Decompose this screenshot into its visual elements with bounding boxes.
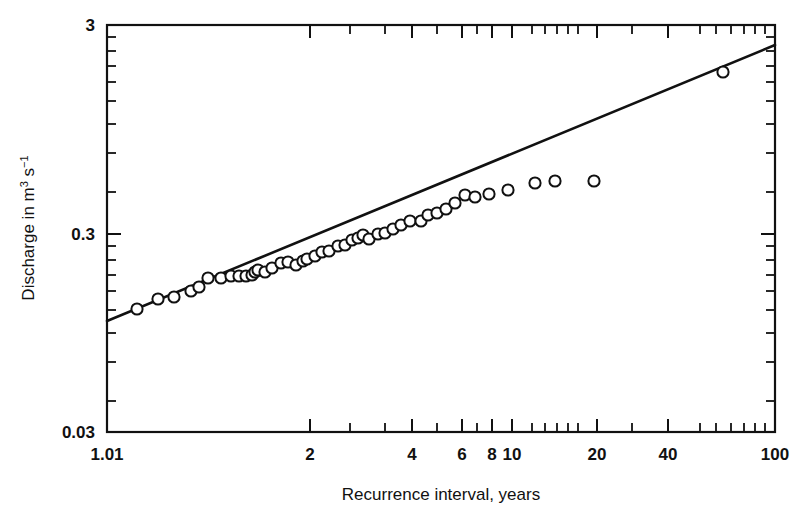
data-point [549,175,560,186]
x-tick-label: 40 [659,445,678,464]
y-tick-label: 3 [86,16,95,35]
y-axis-title-group: Discharge in m3 s−1 [18,155,38,300]
data-point [193,281,204,292]
y-tick-label: 0.03 [62,423,95,442]
y-axis-title-exponent-minus1: −1 [18,155,30,168]
y-axis-title: Discharge in m3 s−1 [18,155,38,300]
x-tick-label: 8 [487,445,496,464]
x-tick-label: 10 [503,445,522,464]
data-point [449,197,460,208]
data-point [131,303,142,314]
data-point [529,177,540,188]
data-point [152,293,163,304]
data-point [717,66,728,77]
data-point [502,184,513,195]
data-point [588,175,599,186]
x-axis-title: Recurrence interval, years [342,485,540,504]
flood-frequency-chart: 30.30.03 1.012468102040100 Recurrence in… [0,0,812,527]
data-point [483,188,494,199]
y-axis-title-mid: s [19,168,38,181]
data-point [469,191,480,202]
data-point [202,272,213,283]
x-tick-label: 6 [457,445,466,464]
x-tick-label: 4 [407,445,417,464]
data-point [168,291,179,302]
y-tick-label: 0.3 [71,225,95,244]
x-tick-label: 100 [761,445,789,464]
y-axis-title-main: Discharge in m [19,187,38,300]
data-point [404,215,415,226]
x-tick-label: 2 [305,445,314,464]
x-tick-label: 1.01 [90,445,123,464]
figure-container: 30.30.03 1.012468102040100 Recurrence in… [0,0,812,527]
x-tick-label: 20 [588,445,607,464]
